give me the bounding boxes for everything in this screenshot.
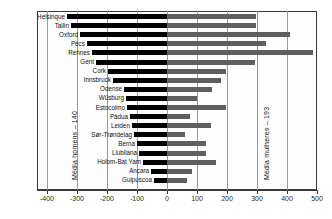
category-label: Helsinque <box>0 14 65 20</box>
bar-negative-homens <box>143 160 167 165</box>
x-tick--100 <box>137 190 138 194</box>
bar-positive-mulheres <box>167 141 206 146</box>
x-axis-line <box>37 190 318 191</box>
bar-negative-homens <box>151 169 167 174</box>
bar-negative-homens <box>124 87 167 92</box>
x-tick--400 <box>47 190 48 194</box>
x-tick--200 <box>107 190 108 194</box>
bar-positive-mulheres <box>167 178 187 183</box>
bar-positive-mulheres <box>167 160 216 165</box>
category-label: Tallin <box>0 23 69 29</box>
bar-positive-mulheres <box>167 132 185 137</box>
bar-negative-homens <box>80 32 167 37</box>
category-label: Berna <box>0 141 135 147</box>
bar-negative-homens <box>154 178 167 183</box>
x-tick-200 <box>227 190 228 194</box>
category-label: Gent <box>0 59 94 65</box>
bar-positive-mulheres <box>167 14 256 19</box>
bar-positive-mulheres <box>167 50 313 55</box>
category-label: Odense <box>0 86 122 92</box>
bar-negative-homens <box>130 114 167 119</box>
annotation-media-homens: Média homens – 140 <box>71 111 78 180</box>
category-label: Estocolmo <box>0 105 125 111</box>
x-tick-500 <box>317 190 318 194</box>
x-tick-100 <box>197 190 198 194</box>
annotation-media-mulheres: Média mulheres – 193 <box>263 107 270 180</box>
bar-negative-homens <box>71 23 167 28</box>
category-label: Wűsburg <box>0 95 124 101</box>
bar-row: Guipúscoa <box>0 178 332 187</box>
bar-negative-homens <box>92 50 167 55</box>
bar-negative-homens <box>87 41 167 46</box>
bar-positive-mulheres <box>167 105 226 110</box>
bar-negative-homens <box>108 69 167 74</box>
bar-negative-homens <box>67 14 167 19</box>
bar-positive-mulheres <box>167 69 226 74</box>
bar-positive-mulheres <box>167 87 212 92</box>
bar-negative-homens <box>134 132 167 137</box>
category-label: Sør-Trøndelag <box>0 132 132 138</box>
bar-positive-mulheres <box>167 78 221 83</box>
bar-positive-mulheres <box>167 32 290 37</box>
category-label: Oxford <box>0 32 78 38</box>
bar-negative-homens <box>96 60 167 65</box>
bar-positive-mulheres <box>167 169 192 174</box>
bar-positive-mulheres <box>167 41 266 46</box>
bar-positive-mulheres <box>167 123 211 128</box>
bar-positive-mulheres <box>167 96 197 101</box>
bar-negative-homens <box>132 123 167 128</box>
category-label: Cork <box>0 68 106 74</box>
bar-negative-homens <box>126 96 167 101</box>
category-label: Liubliana <box>0 150 137 156</box>
x-tick-400 <box>287 190 288 194</box>
bar-positive-mulheres <box>167 60 255 65</box>
x-tick-label-500: 500 <box>297 195 332 202</box>
bar-positive-mulheres <box>167 23 256 28</box>
bar-rows: HelsinqueTallinOxfordPécsRennesGentCorkI… <box>0 11 332 190</box>
bar-negative-homens <box>127 105 167 110</box>
diverging-bar-chart: HelsinqueTallinOxfordPécsRennesGentCorkI… <box>0 0 332 219</box>
bar-positive-mulheres <box>167 114 190 119</box>
bar-negative-homens <box>113 78 167 83</box>
category-label: Pécs <box>0 41 85 47</box>
category-label: Innsbruck <box>0 77 111 83</box>
x-tick-300 <box>257 190 258 194</box>
bar-positive-mulheres <box>167 151 206 156</box>
category-label: Pádua <box>0 114 128 120</box>
x-tick--300 <box>77 190 78 194</box>
category-label: Leiden <box>0 123 130 129</box>
category-label: Rennes <box>0 50 90 56</box>
x-tick-0 <box>167 190 168 194</box>
bar-negative-homens <box>139 151 167 156</box>
bar-negative-homens <box>137 141 167 146</box>
